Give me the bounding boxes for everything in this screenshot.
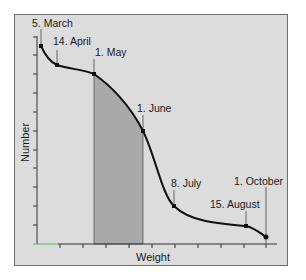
data-points [39, 44, 269, 240]
point-june [141, 129, 145, 133]
label-may: 1. May [95, 46, 127, 58]
label-august: 15. August [210, 198, 260, 210]
label-march: 5. March [32, 17, 73, 29]
point-april [55, 63, 59, 67]
y-axis-title: Number [19, 123, 31, 162]
point-july [172, 204, 176, 208]
point-may [92, 72, 96, 76]
leader-lines [41, 29, 266, 244]
label-june: 1. June [137, 102, 172, 114]
label-october: 1. October [234, 175, 284, 187]
point-march [39, 44, 43, 48]
label-april: 14. April [53, 35, 91, 47]
x-axis-title: Weight [136, 251, 170, 263]
x-axis-ticks [60, 244, 266, 248]
label-july: 8. July [171, 177, 202, 189]
point-august [244, 224, 248, 228]
shaded-region [94, 74, 143, 244]
y-axis-ticks [33, 37, 37, 225]
point-october [264, 235, 269, 240]
chart-plot: 5. March 14. April 1. May 1. June 8. Jul… [0, 0, 306, 280]
